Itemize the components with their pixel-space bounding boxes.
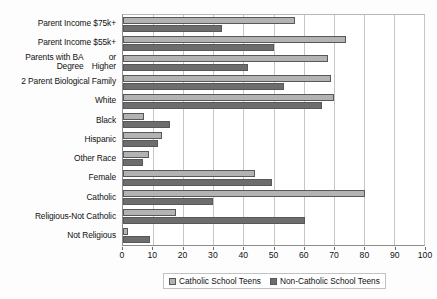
category-label: Parent Income $75k+ [0, 14, 120, 33]
category-label: Parents with BA Degreeor Higher [0, 53, 120, 72]
category-label-line: Parent Income $75k+ [38, 19, 116, 29]
x-tick-label: 90 [390, 250, 400, 261]
bar [123, 228, 128, 235]
bar [123, 179, 272, 186]
bar [123, 75, 331, 82]
bar [123, 217, 305, 224]
x-tick-label: 20 [178, 250, 188, 261]
bar-group [123, 226, 424, 245]
bar-group [123, 188, 424, 207]
legend-swatch-icon [169, 278, 176, 285]
plot-area [122, 14, 425, 246]
x-tick-label: 60 [299, 250, 309, 261]
bar-group [123, 15, 424, 34]
bar [123, 236, 150, 243]
bar-group [123, 130, 424, 149]
category-label: White [0, 91, 120, 110]
bar [123, 151, 149, 158]
bar [123, 198, 213, 205]
bar [123, 209, 176, 216]
x-tick-label: 40 [238, 250, 248, 261]
category-label: Female [0, 169, 120, 188]
bar-group [123, 111, 424, 130]
chart-legend: Catholic School TeensNon-Catholic School… [163, 273, 386, 289]
bar [123, 121, 170, 128]
category-label-line: or Higher [84, 53, 116, 72]
bar-group [123, 92, 424, 111]
bar-group [123, 168, 424, 187]
x-tick-label: 100 [418, 250, 432, 261]
category-axis: Parent Income $75k+Parent Income $55k+Pa… [0, 14, 120, 246]
bar [123, 190, 365, 197]
bar [123, 44, 274, 51]
bar [123, 170, 255, 177]
bar-group [123, 34, 424, 53]
bar-group [123, 207, 424, 226]
category-label: Catholic [0, 188, 120, 207]
bar [123, 83, 284, 90]
bar-group [123, 73, 424, 92]
bar-chart: Parent Income $75k+Parent Income $55k+Pa… [0, 0, 437, 299]
category-label: 2 Parent Biological Family [0, 72, 120, 91]
category-label: Hispanic [0, 130, 120, 149]
legend-item[interactable]: Catholic School Teens [169, 276, 261, 286]
legend-item[interactable]: Non-Catholic School Teens [270, 276, 380, 286]
category-label-line: Religious-Not Catholic [35, 212, 116, 222]
bar [123, 113, 144, 120]
category-label: Other Race [0, 149, 120, 168]
bar [123, 25, 222, 32]
bar [123, 140, 158, 147]
category-label: Not Religious [0, 227, 120, 246]
category-label: Parent Income $55k+ [0, 33, 120, 52]
legend-swatch-icon [270, 278, 277, 285]
bar [123, 55, 328, 62]
x-tick-label: 10 [148, 250, 158, 261]
legend-label: Catholic School Teens [179, 276, 261, 286]
category-label-line: Parent Income $55k+ [38, 38, 116, 48]
bar [123, 102, 322, 109]
category-label: Religious-Not Catholic [0, 207, 120, 226]
bar-group [123, 53, 424, 72]
bar [123, 94, 334, 101]
bar [123, 17, 295, 24]
x-axis: 0102030405060708090100 [122, 247, 425, 263]
bar [123, 132, 162, 139]
category-label: Black [0, 111, 120, 130]
category-label-line: Other Race [74, 154, 116, 164]
category-label-line: Catholic [86, 193, 116, 203]
category-label-line: 2 Parent Biological Family [21, 77, 116, 87]
x-tick-label: 50 [269, 250, 279, 261]
category-label-line: White [95, 96, 116, 106]
category-label-line: Female [89, 173, 116, 183]
x-tick-label: 30 [208, 250, 218, 261]
category-label-line: Parents with BA Degree [0, 53, 84, 72]
legend-label: Non-Catholic School Teens [280, 276, 380, 286]
bar [123, 36, 346, 43]
x-tick-label: 70 [329, 250, 339, 261]
bar-group [123, 149, 424, 168]
bar [123, 159, 143, 166]
gridline [424, 15, 425, 245]
category-label-line: Black [96, 116, 116, 126]
x-tick-label: 0 [120, 250, 125, 261]
category-label-line: Hispanic [85, 135, 116, 145]
bars-layer [123, 15, 424, 245]
bar [123, 64, 248, 71]
category-label-line: Not Religious [67, 231, 116, 241]
x-tick-label: 80 [360, 250, 370, 261]
